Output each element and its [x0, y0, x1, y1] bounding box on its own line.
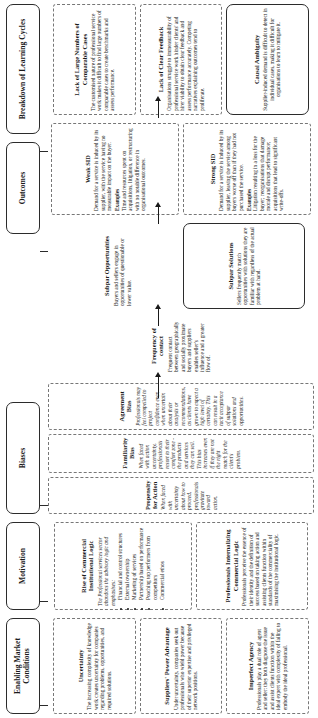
box-lack-of-clear-feedback[interactable]: Lack of Clear Feedback Organisations str…: [140, 4, 222, 115]
box-body: The increasing complexity of knowledge w…: [86, 622, 112, 710]
column-header-motivation[interactable]: Motivation: [6, 522, 40, 610]
column-outcomes: Weak SID Demand for a service is induced…: [48, 123, 314, 215]
box-title: Subpar Opportunities: [103, 226, 110, 306]
box-title: Subpar Solutions: [227, 227, 234, 305]
box-professionals-internalizing-commercial-logic[interactable]: Professionals Internalizing Commercial L…: [196, 522, 308, 610]
box-title: Familiarity Bias: [121, 438, 136, 469]
box-body: Demand for a service is induced by its s…: [93, 127, 112, 211]
tick: [40, 601, 48, 602]
box-title: Frequency of contact: [150, 320, 165, 372]
box-body: Buyers and sellers engage in opportuniti…: [113, 226, 132, 306]
box-body: Organisations struggle to immeasurabilit…: [166, 8, 205, 111]
box-subpar-opportunities[interactable]: Subpar Opportunities Buyers and sellers …: [57, 223, 179, 309]
box-title: Rise of Commercial Institutional Logic: [80, 526, 95, 606]
box-rise-of-commercial-institutional-logic[interactable]: Rise of Commercial Institutional Logic T…: [54, 522, 192, 610]
tick: [40, 705, 48, 706]
bullet-item: Financial and control structures: [117, 526, 124, 600]
box-propensity-for-action[interactable]: Propensity for Action When faced with un…: [48, 477, 314, 514]
box-title: Suppliers' Power Advantage: [163, 622, 170, 710]
box-title: Weak SID: [84, 127, 91, 211]
box-bullet-list: Financial and control structures Externa…: [117, 526, 166, 606]
box-title: Uncertainty: [77, 622, 84, 710]
box-body: Professionals may feel compelled to proj…: [135, 387, 245, 426]
box-title: Professionals Internalizing Commercial L…: [224, 526, 239, 606]
column-header-outcomes[interactable]: Outcomes: [6, 142, 40, 234]
box-familiarity-bias[interactable]: Familiarity Bias When faced with action …: [48, 434, 314, 473]
box-body: Professionals perceive the essence of th…: [241, 526, 280, 606]
box-body: Demand for a service is induced by its s…: [218, 127, 244, 211]
tick: [40, 251, 48, 252]
header-connector-ticks: [40, 4, 48, 714]
bullet-item: External ownership: [124, 526, 131, 600]
examples-body: Litigation resulting in a loss for the b…: [252, 127, 284, 211]
column-biases: Propensity for Action When faced with un…: [48, 383, 314, 514]
box-subpar-solutions[interactable]: Subpar Solutions Sellers frequently matc…: [183, 223, 305, 309]
box-body: When faced with uncertainty about how to…: [160, 481, 218, 510]
bullet-item: Marketing of services: [131, 526, 138, 600]
box-title: Imperfect Agency: [247, 622, 254, 710]
box-frequency-of-contact[interactable]: Frequency of contact Frequent contact be…: [147, 317, 215, 375]
box-body: The Professional services sector abandon…: [97, 526, 116, 606]
column-frequency-of-contact: Frequency of contact Frequent contact be…: [48, 317, 314, 375]
examples-body: Time and resources spent on acquisitions…: [121, 127, 147, 211]
tick: [40, 505, 48, 506]
bullet-item: Partnership based on performance: [138, 526, 145, 600]
header-label: Biases: [19, 448, 28, 468]
box-body: Supplier-induced demand is difficult to …: [262, 8, 281, 111]
column-enabling-market-conditions: Uncertainty The increasing complexity of…: [48, 618, 314, 714]
box-title: Causal Ambiguity: [253, 8, 260, 111]
box-title: Lack of Clear Feedback: [157, 8, 164, 111]
box-title: Strong SID: [209, 127, 216, 211]
column-body-row: Uncertainty The increasing complexity of…: [48, 4, 314, 714]
box-weak-sid[interactable]: Weak SID Demand for a service is induced…: [51, 123, 179, 215]
box-body: The customised nature of professional se…: [90, 8, 116, 111]
box-body: Sellers frequently match opportunities w…: [236, 227, 262, 305]
box-causal-ambiguity[interactable]: Causal Ambiguity Supplier-induced demand…: [226, 4, 308, 115]
box-lack-of-large-numbers-of-comparable-cases[interactable]: Lack of Large Numbers of Comparable Case…: [53, 4, 135, 115]
box-body: Under uncertainty, companies seek out pr…: [173, 622, 199, 710]
column-motivation: Rise of Commercial Institutional Logic T…: [48, 522, 314, 610]
box-uncertainty[interactable]: Uncertainty The increasing complexity of…: [53, 618, 135, 714]
bullet-item: Commercial ethos: [159, 526, 166, 600]
box-body: Professionals play a dual role of agent …: [256, 622, 288, 710]
box-suppliers-power-advantage[interactable]: Suppliers' Power Advantage Under uncerta…: [140, 618, 222, 714]
rotated-figure-wrapper: Enabling Market Conditions Motivation Bi…: [0, 0, 318, 718]
flowchart-canvas: Enabling Market Conditions Motivation Bi…: [0, 0, 318, 718]
column-header-breakdown-of-learning-cycles[interactable]: Breakdown of Learning Cycles: [6, 4, 40, 134]
header-label: Breakdown of Learning Cycles: [19, 19, 28, 119]
tick: [40, 151, 48, 152]
box-strong-sid[interactable]: Strong SID Demand for a service is induc…: [183, 123, 311, 215]
column-subpar-opportunities: Subpar Opportunities Buyers and sellers …: [48, 223, 314, 309]
column-header-enabling-market-conditions[interactable]: Enabling Market Conditions: [6, 618, 40, 714]
box-body: Frequent contact between geographically …: [167, 320, 212, 372]
box-body: When faced with action uncertainty, prof…: [138, 438, 241, 469]
header-label: Motivation: [19, 548, 28, 584]
column-header-biases[interactable]: Biases: [6, 402, 40, 514]
box-title: Propensity for Action: [144, 481, 159, 510]
box-title: Lack of Large Numbers of Comparable Case…: [73, 8, 88, 111]
bullet-item: Poaching top performers from competitors: [145, 526, 158, 600]
box-title: Agreement Bias: [118, 387, 133, 426]
column-header-subpar-opportunities-spacer: [6, 242, 40, 328]
header-label: Enabling Market Conditions: [14, 621, 32, 711]
column-header-frequency-of-contact-spacer: [6, 336, 40, 394]
box-agreement-bias[interactable]: Agreement Bias Professionals may feel co…: [48, 383, 314, 430]
column-breakdown-of-learning-cycles: Lack of Large Numbers of Comparable Case…: [48, 4, 314, 115]
header-label: Outcomes: [19, 172, 28, 204]
box-imperfect-agency[interactable]: Imperfect Agency Professionals play a du…: [226, 618, 308, 714]
column-header-row: Enabling Market Conditions Motivation Bi…: [6, 4, 40, 714]
